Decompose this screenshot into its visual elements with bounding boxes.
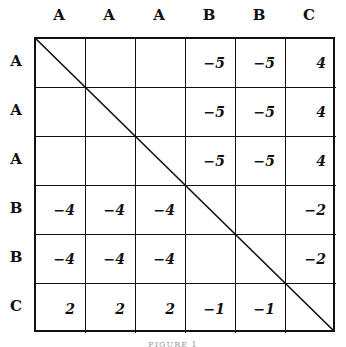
matrix-cell — [136, 88, 186, 137]
matrix-cell — [186, 235, 236, 284]
figure-caption: FIGURE 1 — [0, 340, 346, 347]
matrix-cell: −5 — [236, 137, 286, 186]
matrix-cell — [86, 137, 136, 186]
row-header: C — [6, 297, 26, 315]
matrix-cell: −1 — [186, 284, 236, 333]
matrix-cell: −2 — [286, 186, 336, 235]
matrix-cell — [136, 39, 186, 88]
column-header: B — [184, 6, 234, 24]
matrix-cell: −4 — [86, 235, 136, 284]
matrix-cell — [286, 284, 336, 333]
matrix-cell — [136, 137, 186, 186]
matrix-cell: −4 — [36, 235, 86, 284]
matrix-cell: 2 — [86, 284, 136, 333]
matrix-cell — [86, 88, 136, 137]
matrix-cell: −4 — [36, 186, 86, 235]
matrix-cell — [36, 137, 86, 186]
column-header: B — [234, 6, 284, 24]
matrix-cell: 2 — [36, 284, 86, 333]
row-header: B — [6, 248, 26, 266]
column-header: A — [84, 6, 134, 24]
matrix-cell: −1 — [236, 284, 286, 333]
matrix-cell: −5 — [236, 88, 286, 137]
row-header: B — [6, 199, 26, 217]
matrix-cell — [36, 88, 86, 137]
matrix-cell: −5 — [186, 39, 236, 88]
column-header: A — [34, 6, 84, 24]
matrix-cell — [86, 39, 136, 88]
matrix-cell: −4 — [136, 235, 186, 284]
matrix-cell: −5 — [236, 39, 286, 88]
matrix-cell: −5 — [186, 137, 236, 186]
matrix-cell — [236, 186, 286, 235]
column-header: C — [284, 6, 334, 24]
matrix-cell — [236, 235, 286, 284]
matrix-cell: 4 — [286, 88, 336, 137]
matrix-cell: 2 — [136, 284, 186, 333]
matrix-cell: 4 — [286, 39, 336, 88]
matrix-cell — [36, 39, 86, 88]
matrix-cell: −4 — [86, 186, 136, 235]
matrix-cell — [186, 186, 236, 235]
row-header: A — [6, 150, 26, 168]
matrix-cell: −2 — [286, 235, 336, 284]
matrix-cell: −5 — [186, 88, 236, 137]
matrix-cell: 4 — [286, 137, 336, 186]
row-header: A — [6, 101, 26, 119]
payoff-matrix-grid: −5−54−5−54−5−54−4−4−4−2−4−4−4−2222−1−1 — [34, 37, 335, 332]
row-header: A — [6, 52, 26, 70]
matrix-cell: −4 — [136, 186, 186, 235]
column-header: A — [134, 6, 184, 24]
